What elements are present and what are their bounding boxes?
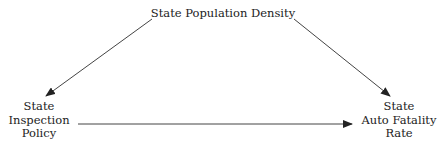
node-inspection-policy: State Inspection Policy (0, 100, 78, 141)
node-label-line: State (0, 100, 78, 114)
node-auto-fatality-rate: State Auto Fatality Rate (355, 100, 443, 141)
node-population-density: State Population Density (150, 7, 296, 21)
node-label-line: Auto Fatality (355, 114, 443, 128)
node-label-line: Policy (0, 127, 78, 141)
node-label: State Population Density (151, 6, 295, 20)
node-label-line: Rate (355, 127, 443, 141)
node-label-line: State (355, 100, 443, 114)
node-label-line: Inspection (0, 114, 78, 128)
edge-density-to-fatality (294, 19, 390, 96)
edge-density-to-inspection (46, 19, 152, 96)
